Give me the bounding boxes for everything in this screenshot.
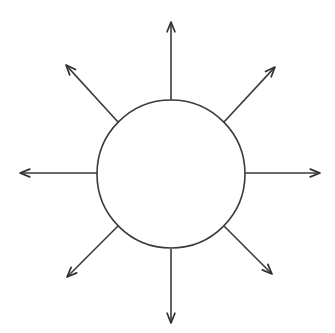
hub-circle [97,100,245,248]
diagram-canvas [0,0,335,333]
radial-arrow-diagram [0,0,335,333]
